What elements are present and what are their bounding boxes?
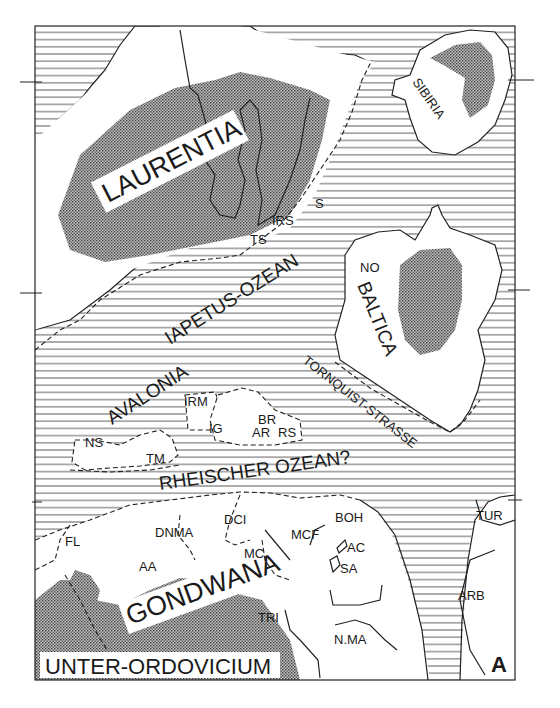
panel-label: A: [491, 652, 507, 677]
label-tm: TM: [146, 451, 165, 466]
label-no: NO: [360, 260, 380, 275]
label-ns: NS: [85, 435, 103, 450]
label-tri: TRI: [258, 610, 279, 625]
label-s: S: [315, 196, 324, 211]
label-rs: RS: [278, 425, 296, 440]
label-ig: IG: [209, 421, 223, 436]
label-ac: AC: [347, 540, 365, 555]
label-irs: IRS: [272, 213, 294, 228]
label-aa: AA: [139, 559, 157, 574]
label-ar: AR: [252, 425, 270, 440]
label-tur: TUR: [476, 508, 503, 523]
label-sa: SA: [340, 561, 358, 576]
label-ts: TS: [250, 232, 267, 247]
label-arb: ARB: [458, 588, 485, 603]
label-nma: N.MA: [334, 632, 367, 647]
label-fl: FL: [65, 534, 80, 549]
paleogeographic-map: LAURENTIA SIBIRIA BALTICA AVALONIA GONDW…: [0, 0, 560, 708]
label-mc: MC: [244, 546, 264, 561]
label-dnma: DNMA: [155, 525, 194, 540]
label-mcf: MCF: [291, 527, 319, 542]
label-boh: BOH: [335, 510, 363, 525]
label-dci: DCI: [224, 512, 246, 527]
map-title: UNTER-ORDOVICIUM: [45, 654, 271, 679]
label-irm: IRM: [184, 394, 208, 409]
